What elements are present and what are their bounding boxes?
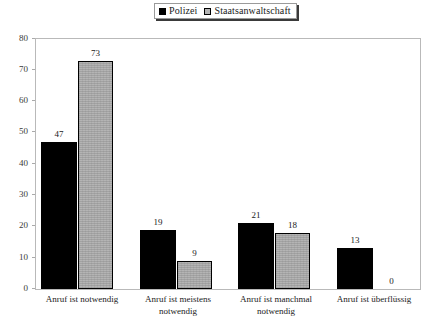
bar-value-staatsanwaltschaft-2: 9	[177, 249, 212, 258]
bar-polizei-3[interactable]	[238, 223, 274, 289]
bar-value-polizei-3: 21	[238, 211, 274, 220]
black-square-icon	[159, 8, 166, 15]
bar-group-anruf-ist-notwendig: 47 73	[41, 39, 117, 289]
bar-value-polizei-4: 13	[337, 236, 373, 245]
x-label-anruf-ist-manchmal-notwendig: Anruf ist manchmal notwendig	[226, 294, 326, 317]
bar-polizei-2[interactable]	[140, 230, 176, 289]
legend-entry-polizei: Polizei	[159, 6, 197, 16]
bar-polizei-1[interactable]	[41, 142, 77, 289]
y-tick-10: 10	[0, 251, 35, 263]
bar-group-anruf-ist-manchmal-notwendig: 21 18	[238, 39, 314, 289]
bar-group-anruf-ist-ueberfluessig: 13 0	[337, 39, 413, 289]
x-label-line: notwendig	[128, 306, 228, 318]
bar-value-polizei-1: 47	[41, 130, 77, 139]
chart-legend: Polizei Staatsanwaltschaft	[154, 3, 297, 19]
x-label-anruf-ist-ueberfluessig: Anruf ist überflüssig	[324, 294, 424, 306]
legend-label-polizei: Polizei	[169, 6, 197, 16]
x-label-anruf-ist-meistens-notwendig: Anruf ist meistens notwendig	[128, 294, 228, 317]
y-tick-70: 70	[0, 63, 35, 75]
y-tick-30: 30	[0, 188, 35, 200]
bar-series-container: 47 73 19 9 21 18 13 0	[36, 39, 420, 289]
bar-value-staatsanwaltschaft-4: 0	[374, 277, 409, 286]
y-tick-20: 20	[0, 219, 35, 231]
bar-polizei-4[interactable]	[337, 248, 373, 289]
y-tick-0: 0	[0, 282, 35, 294]
y-tick-40: 40	[0, 157, 35, 169]
x-label-line: Anruf ist überflüssig	[324, 294, 424, 306]
bar-staatsanwaltschaft-1[interactable]	[78, 61, 113, 289]
y-tick-80: 80	[0, 32, 35, 44]
x-label-anruf-ist-notwendig: Anruf ist notwendig	[32, 294, 132, 306]
x-label-line: Anruf ist notwendig	[32, 294, 132, 306]
bar-value-staatsanwaltschaft-1: 73	[78, 49, 113, 58]
legend-label-staatsanwaltschaft: Staatsanwaltschaft	[214, 6, 290, 16]
x-axis-labels: Anruf ist notwendig Anruf ist meistens n…	[35, 294, 421, 330]
x-label-line: notwendig	[226, 306, 326, 318]
y-tick-50: 50	[0, 125, 35, 137]
bar-staatsanwaltschaft-3[interactable]	[275, 233, 310, 289]
gray-square-icon	[204, 8, 211, 15]
x-label-line: Anruf ist manchmal	[226, 294, 326, 306]
x-label-line: Anruf ist meistens	[128, 294, 228, 306]
bar-staatsanwaltschaft-2[interactable]	[177, 261, 212, 289]
y-tick-60: 60	[0, 94, 35, 106]
bar-group-anruf-ist-meistens-notwendig: 19 9	[140, 39, 216, 289]
bar-value-polizei-2: 19	[140, 218, 176, 227]
legend-entry-staatsanwaltschaft: Staatsanwaltschaft	[204, 6, 290, 16]
y-axis: 80 70 60 50 40 30 20 10 0	[0, 30, 35, 298]
bar-value-staatsanwaltschaft-3: 18	[275, 221, 310, 230]
